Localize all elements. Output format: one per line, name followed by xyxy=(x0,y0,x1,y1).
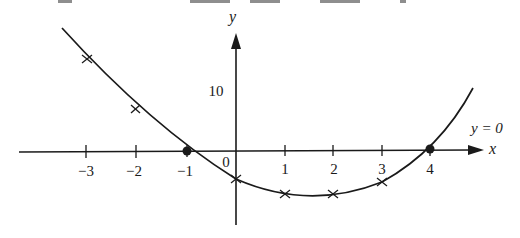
parabola-curve xyxy=(62,28,473,196)
x-tick-label: 4 xyxy=(426,161,434,177)
cross-marker-x-2 xyxy=(131,105,140,113)
x-axis-label: x xyxy=(488,140,496,157)
cropped-text-line xyxy=(58,0,406,3)
x-tick-label: −3 xyxy=(78,163,94,179)
x-tick-label: 1 xyxy=(281,161,289,177)
y-axis-arrow-icon xyxy=(231,33,241,49)
y-equals-zero-label: y = 0 xyxy=(469,120,503,136)
root-point-x4 xyxy=(426,145,435,154)
cross-marker-x3 xyxy=(377,178,387,186)
x-tick-label: 2 xyxy=(330,161,338,177)
y-axis xyxy=(231,33,241,225)
quadratic-graph: −3 −2 −1 0 1 2 3 4 10 y x y = 0 xyxy=(0,0,520,238)
root-point-x-1 xyxy=(183,147,192,156)
x-tick-label: −2 xyxy=(126,163,142,179)
x-tick-label: −1 xyxy=(177,163,193,179)
y-axis-label: y xyxy=(227,8,237,26)
origin-label: 0 xyxy=(222,154,230,170)
x-axis-arrow-icon xyxy=(468,145,484,155)
x-axis xyxy=(19,145,484,158)
y-tick-label: 10 xyxy=(209,83,224,99)
graph-canvas: −3 −2 −1 0 1 2 3 4 10 y x y = 0 xyxy=(0,0,520,238)
x-tick-label: 3 xyxy=(378,161,386,177)
